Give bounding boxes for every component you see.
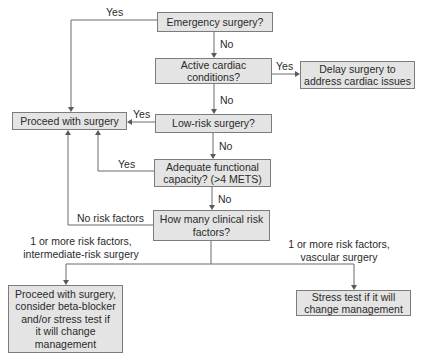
label-functional-no: No — [218, 193, 231, 206]
label-intermediate-risk: 1 or more risk factors, intermediate-ris… — [20, 235, 142, 260]
label-emergency-yes: Yes — [106, 6, 123, 19]
node-delay-surgery: Delay surgery to address cardiac issues — [300, 61, 415, 89]
node-emergency-surgery: Emergency surgery? — [157, 12, 273, 32]
node-proceed-beta-blocker: Proceed with surgery, consider beta-bloc… — [8, 285, 123, 353]
label-cardiac-no: No — [220, 94, 233, 107]
node-proceed-with-surgery: Proceed with surgery — [12, 112, 127, 130]
label-functional-yes: Yes — [118, 158, 135, 171]
arrowhead — [65, 130, 71, 135]
label-cardiac-yes: Yes — [276, 60, 293, 73]
label-lowrisk-yes: Yes — [133, 108, 150, 121]
arrowhead — [127, 119, 132, 125]
label-vascular-surgery: 1 or more risk factors, vascular surgery — [283, 238, 395, 263]
node-clinical-risk-factors: How many clinical risk factors? — [153, 210, 270, 241]
label-lowrisk-no: No — [219, 140, 232, 153]
arrowhead — [95, 130, 101, 135]
node-active-cardiac-conditions: Active cardiac conditions? — [155, 58, 272, 84]
edge-emergency-yes — [71, 20, 157, 108]
label-emergency-no: No — [220, 38, 233, 51]
label-no-risk-factors: No risk factors — [77, 212, 144, 225]
node-stress-test: Stress test if it will change management — [296, 290, 411, 316]
node-functional-capacity: Adequate functional capacity? (>4 METS) — [154, 159, 271, 187]
node-low-risk-surgery: Low-risk surgery? — [155, 114, 272, 133]
